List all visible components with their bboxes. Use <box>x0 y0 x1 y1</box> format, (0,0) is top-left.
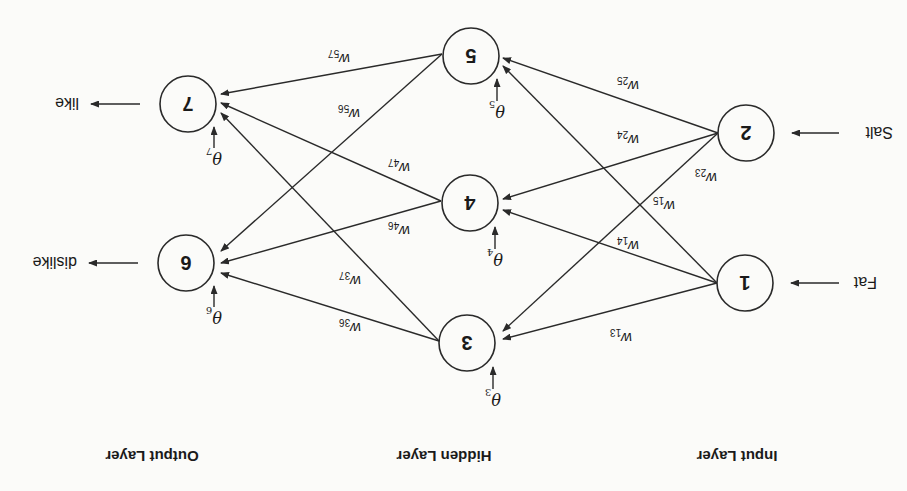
weight-w46: w46 <box>388 220 410 240</box>
bias-theta3: θ3 <box>485 387 501 408</box>
weight-w24: w24 <box>617 129 639 149</box>
node-7: 7 <box>160 76 216 132</box>
weight-w25: w25 <box>617 75 639 95</box>
edge-1-5 <box>503 66 717 283</box>
node-1: 1 <box>717 255 773 311</box>
weight-w14: w14 <box>617 235 639 255</box>
bias-theta6: θ6 <box>206 305 222 326</box>
node-4: 4 <box>442 175 498 231</box>
edge-2-5 <box>503 58 718 133</box>
weight-w37: w37 <box>339 270 361 290</box>
node-1-label: 1 <box>739 272 750 294</box>
edge-5-7 <box>221 54 442 94</box>
output-label-like: like <box>55 95 79 112</box>
node-6: 6 <box>158 235 214 291</box>
bias-theta7: θ7 <box>206 146 222 167</box>
input-label-fat: Fat <box>853 274 877 291</box>
edge-4-7 <box>221 103 441 201</box>
node-3: 3 <box>439 315 495 371</box>
neural-network-diagram: Input Layer Hidden Layer Output Layer w1… <box>0 0 907 491</box>
node-7-label: 7 <box>182 93 193 115</box>
edges-hidden-output <box>221 54 442 341</box>
edge-1-4 <box>503 210 717 283</box>
layer-label-output: Output Layer <box>105 448 199 465</box>
output-signals: dislike like <box>32 95 140 271</box>
output-label-dislike: dislike <box>32 254 77 271</box>
node-2-label: 2 <box>740 122 751 144</box>
weight-w47: w47 <box>388 157 410 177</box>
edge-2-4 <box>503 133 718 199</box>
edge-5-6 <box>221 54 442 251</box>
layer-label-hidden: Hidden Layer <box>396 448 491 465</box>
diagram-svg: Input Layer Hidden Layer Output Layer w1… <box>0 0 907 491</box>
bias-theta4: θ4 <box>487 247 503 268</box>
node-2: 2 <box>718 105 774 161</box>
node-6-label: 6 <box>180 252 191 274</box>
node-4-label: 4 <box>464 192 476 214</box>
node-3-label: 3 <box>461 332 472 354</box>
edge-2-3 <box>503 133 718 331</box>
input-label-salt: Salt <box>865 124 893 141</box>
weight-labels: w13 w14 w15 w23 w24 w25 w36 w37 w46 w47 … <box>328 48 717 347</box>
node-5-label: 5 <box>465 45 476 67</box>
edges-input-hidden <box>503 58 718 339</box>
input-signals: Fat Salt <box>791 124 893 291</box>
bias-theta5: θ5 <box>489 99 505 120</box>
weight-w36: w36 <box>339 317 361 337</box>
layer-label-input: Input Layer <box>696 448 777 465</box>
nodes: 1 2 3 4 5 6 7 <box>158 28 774 371</box>
weight-w56: w56 <box>338 103 360 123</box>
weight-w23: w23 <box>695 167 717 187</box>
weight-w15: w15 <box>653 195 675 215</box>
weight-w13: w13 <box>610 327 632 347</box>
node-5: 5 <box>443 28 499 84</box>
weight-w57: w57 <box>328 48 350 68</box>
